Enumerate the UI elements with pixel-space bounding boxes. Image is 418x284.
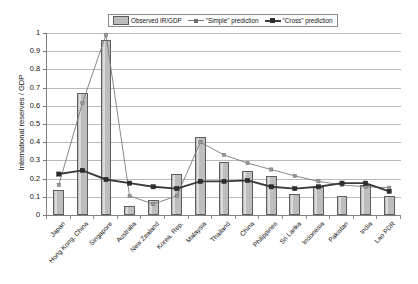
x-axis-labels: JapanHong Kong, ChinaSingaporeAustraliaN… [0, 215, 418, 284]
legend-item-cross: "Cross" prediction [265, 16, 333, 25]
y-axis-tickmark [43, 142, 46, 143]
line-series [47, 33, 401, 215]
y-axis-tickmark [43, 33, 46, 34]
y-axis-tickmark [43, 160, 46, 161]
y-axis-tick-label: 0.3 [0, 155, 40, 164]
y-axis-tick-label: 0.7 [0, 83, 40, 92]
line-marker [128, 181, 132, 185]
chart-root: Observed IR/GDP "Simple" prediction "Cro… [0, 0, 418, 284]
y-axis-tickmark [43, 88, 46, 89]
line-marker [151, 185, 155, 189]
y-axis-tick-label: 0.4 [0, 137, 40, 146]
legend-item-observed: Observed IR/GDP [113, 16, 182, 25]
line-marker [317, 180, 320, 183]
line-marker [387, 189, 391, 193]
line-marker [340, 181, 344, 185]
y-axis-tick-label: 1 [0, 28, 40, 37]
line-marker [104, 33, 107, 36]
line-marker [175, 187, 179, 191]
legend-label-cross: "Cross" prediction [283, 16, 333, 25]
legend-item-simple: "Simple" prediction [188, 16, 259, 25]
line-marker [80, 168, 84, 172]
line-marker [269, 185, 273, 189]
line-marker [81, 101, 84, 104]
line-marker [364, 181, 368, 185]
line-marker [316, 185, 320, 189]
line-marker [198, 179, 202, 183]
line-marker [293, 174, 296, 177]
y-axis-tickmark [43, 197, 46, 198]
line-marker [270, 168, 273, 171]
y-axis-tickmark [43, 179, 46, 180]
y-axis-tickmark [43, 106, 46, 107]
y-axis-tick-label: 0.9 [0, 46, 40, 55]
plot-area [46, 33, 401, 216]
line-marker [388, 186, 391, 189]
line-marker [293, 187, 297, 191]
line-path [59, 35, 389, 204]
chart-legend: Observed IR/GDP "Simple" prediction "Cro… [108, 14, 338, 27]
line-marker [246, 178, 250, 182]
y-axis-tick-label: 0.2 [0, 174, 40, 183]
y-axis-tickmark [43, 51, 46, 52]
line-marker [222, 153, 225, 156]
line-marker [57, 172, 61, 176]
line-marker [222, 179, 226, 183]
y-axis-tickmark [43, 69, 46, 70]
bar-swatch-icon [113, 16, 129, 25]
y-axis-tick-label: 0.1 [0, 192, 40, 201]
line-marker-cross-icon [265, 17, 281, 24]
line-marker [199, 141, 202, 144]
y-axis-tickmark [43, 124, 46, 125]
line-marker [364, 185, 367, 188]
y-axis-tick-label: 0.6 [0, 101, 40, 110]
y-axis-tick-label: 0.5 [0, 119, 40, 128]
y-axis-tick-label: 0.8 [0, 64, 40, 73]
line-marker [246, 162, 249, 165]
line-marker-simple-icon [188, 17, 204, 24]
line-marker [104, 177, 108, 181]
line-marker [57, 183, 60, 186]
legend-label-simple: "Simple" prediction [206, 16, 259, 25]
legend-label-observed: Observed IR/GDP [131, 16, 182, 25]
